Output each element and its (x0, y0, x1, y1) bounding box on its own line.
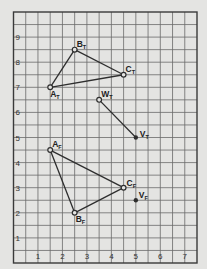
chart-canvas: 1234567123456789 ATBTCTWTVTAFBFCFVF (0, 0, 207, 269)
point-marker-icon (134, 135, 138, 139)
coordinate-grid-chart: 1234567123456789 ATBTCTWTVTAFBFCFVF (0, 0, 207, 269)
segment-w_t-v_t (99, 100, 136, 138)
y-tick-label: 6 (16, 108, 21, 117)
grid-lines (14, 12, 198, 263)
point-marker-icon (121, 185, 126, 190)
point-marker-icon (134, 198, 138, 202)
y-tick-label: 1 (16, 234, 21, 243)
y-tick-label: 4 (16, 159, 21, 168)
point-label: BF (76, 214, 86, 225)
point-label: AF (52, 139, 62, 150)
y-tick-label: 5 (16, 134, 21, 143)
x-tick-label: 7 (183, 252, 188, 261)
point-label: AT (50, 89, 60, 100)
y-tick-label: 2 (16, 209, 21, 218)
x-tick-label: 2 (60, 252, 65, 261)
point-label: BT (77, 39, 87, 50)
x-tick-label: 3 (85, 252, 90, 261)
y-tick-label: 3 (16, 184, 21, 193)
y-tick-label: 7 (16, 83, 21, 92)
x-tick-label: 1 (36, 252, 41, 261)
axis-tick-labels: 1234567123456789 (16, 33, 188, 261)
y-tick-label: 9 (16, 33, 21, 42)
point-label: CT (126, 64, 136, 75)
x-tick-label: 5 (134, 252, 139, 261)
x-tick-label: 4 (109, 252, 114, 261)
x-tick-label: 6 (158, 252, 163, 261)
point-label: CF (127, 178, 137, 189)
point-label: VF (139, 190, 149, 201)
y-tick-label: 8 (16, 58, 21, 67)
